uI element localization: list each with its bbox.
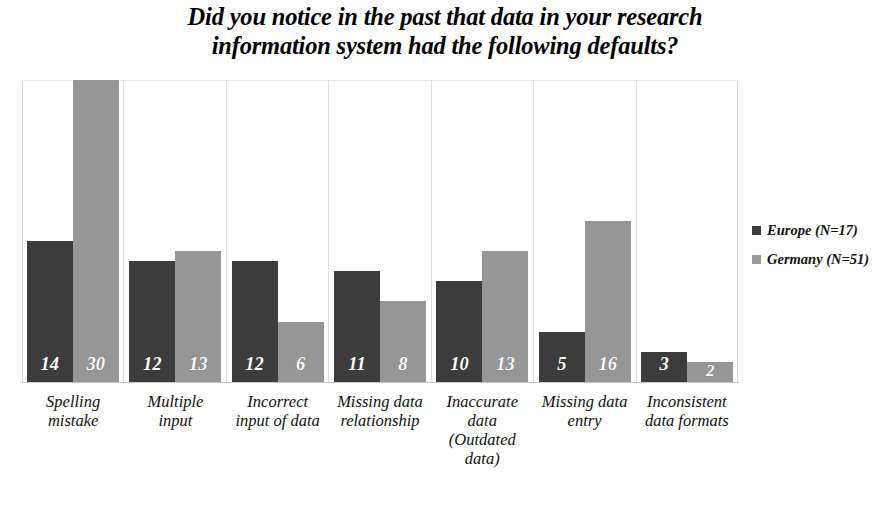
bar-europe[interactable]: 11	[334, 271, 380, 382]
legend-swatch-icon-europe	[752, 226, 761, 235]
chart-legend: Europe (N=17) Germany (N=51)	[752, 222, 882, 280]
bar-value-label: 5	[539, 354, 585, 374]
bar-pair: 1213	[124, 80, 225, 382]
bar-value-label: 2	[687, 361, 733, 381]
bar-europe[interactable]: 3	[641, 352, 687, 382]
category-label: Multiple input	[124, 392, 226, 468]
bar-pair: 126	[227, 80, 328, 382]
legend-item-germany: Germany (N=51)	[752, 251, 882, 267]
bar-pair: 1013	[432, 80, 533, 382]
chart-title: Did you notice in the past that data in …	[100, 2, 790, 60]
bar-europe[interactable]: 12	[232, 261, 278, 382]
legend-label-germany: Germany (N=51)	[767, 251, 869, 267]
category-label: Spelling mistake	[22, 392, 124, 468]
bar-group: 1213	[123, 80, 225, 382]
bar-value-label: 13	[175, 354, 221, 374]
bar-pair: 516	[534, 80, 635, 382]
bar-value-label: 14	[27, 354, 73, 374]
bar-value-label: 12	[129, 354, 175, 374]
category-label: Missing data entry	[533, 392, 635, 468]
bar-value-label: 6	[278, 354, 324, 374]
bar-value-label: 13	[482, 354, 528, 374]
legend-swatch-icon-germany	[752, 255, 761, 264]
bar-germany[interactable]: 30	[73, 80, 119, 382]
bar-europe[interactable]: 10	[436, 281, 482, 382]
axis-baseline	[22, 382, 739, 383]
bar-group: 126	[226, 80, 328, 382]
bar-pair: 118	[329, 80, 430, 382]
legend-label-europe: Europe (N=17)	[767, 222, 858, 238]
bar-germany[interactable]: 2	[687, 362, 733, 382]
bar-groups: 14301213126118101351632	[22, 80, 738, 382]
bar-value-label: 16	[585, 354, 631, 374]
category-axis-labels: Spelling mistakeMultiple inputIncorrect …	[22, 392, 738, 468]
category-label: Inaccurate data (Outdated data)	[431, 392, 533, 468]
bar-group: 32	[636, 80, 738, 382]
bar-value-label: 12	[232, 354, 278, 374]
category-label: Missing data relationship	[329, 392, 431, 468]
bar-germany[interactable]: 6	[278, 322, 324, 382]
bar-germany[interactable]: 13	[482, 251, 528, 382]
bar-group: 118	[328, 80, 430, 382]
bar-value-label: 8	[380, 354, 426, 374]
bar-value-label: 3	[641, 354, 687, 374]
bar-germany[interactable]: 13	[175, 251, 221, 382]
bar-germany[interactable]: 8	[380, 301, 426, 382]
bar-germany[interactable]: 16	[585, 221, 631, 382]
bar-group: 516	[533, 80, 635, 382]
category-label: Incorrect input of data	[227, 392, 329, 468]
bar-value-label: 30	[73, 354, 119, 374]
bar-europe[interactable]: 12	[129, 261, 175, 382]
bar-pair: 1430	[22, 80, 123, 382]
bar-group: 1430	[22, 80, 123, 382]
legend-item-europe: Europe (N=17)	[752, 222, 882, 238]
bar-pair: 32	[637, 80, 738, 382]
bar-value-label: 10	[436, 354, 482, 374]
bar-europe[interactable]: 14	[27, 241, 73, 382]
bar-value-label: 11	[334, 354, 380, 374]
bar-group: 1013	[431, 80, 533, 382]
category-label: Inconsistent data formats	[636, 392, 738, 468]
bar-europe[interactable]: 5	[539, 332, 585, 382]
